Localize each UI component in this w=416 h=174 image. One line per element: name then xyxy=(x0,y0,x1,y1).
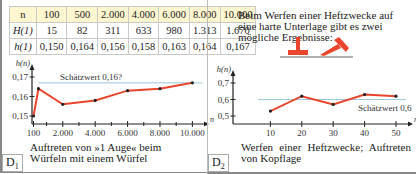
reference-line-label: Schätzwert 0,16? xyxy=(60,72,122,82)
x-tick-label: 2.000 xyxy=(53,128,74,138)
y-axis-label: h(n) xyxy=(16,58,30,68)
data-point xyxy=(32,114,35,117)
chart-caption: Werfen einer Heftzwecke; Auftreten von K… xyxy=(241,142,411,164)
data-point xyxy=(126,89,129,92)
panel-d1: n 100 500 2.000 4.000 6.000 8.000 10.000… xyxy=(0,0,207,173)
data-point xyxy=(94,99,97,102)
y-tick-label: 0,7 xyxy=(218,78,230,88)
tag-letter: D xyxy=(212,155,221,169)
y-axis-arrow-icon xyxy=(231,70,236,76)
data-point xyxy=(191,81,194,84)
series-line xyxy=(34,83,193,116)
data-point xyxy=(158,87,161,90)
panel-d2: Beim Werfen einer Heftzwecke auf eine ha… xyxy=(207,0,416,174)
x-tick-label: 30 xyxy=(329,128,339,138)
data-point xyxy=(37,87,40,90)
reference-line-label: Schätzwert 0,6 xyxy=(358,103,412,113)
x-tick-label: 20 xyxy=(297,128,307,138)
x-tick-label: 10 xyxy=(266,128,276,138)
figure-tag: D2 xyxy=(208,154,229,172)
y-tick-label: 0,5 xyxy=(218,111,230,121)
x-tick-label: 100 xyxy=(27,128,41,138)
data-point xyxy=(363,93,366,96)
x-tick-label: 6.000 xyxy=(117,128,138,138)
y-tick-label: 0,6 xyxy=(218,95,230,105)
x-tick-label: 8.000 xyxy=(150,128,171,138)
chart-caption: Auftreten von »1 Auge« beim Würfeln mit … xyxy=(30,142,200,164)
y-axis-arrow-icon xyxy=(30,64,35,70)
data-point xyxy=(269,109,272,112)
x-axis-arrow-icon xyxy=(408,122,413,127)
x-tick-label: 50 xyxy=(392,128,402,138)
tag-letter: D xyxy=(6,155,15,169)
x-tick-label: 40 xyxy=(360,128,370,138)
y-tick-label: 0,16 xyxy=(12,92,28,102)
x-tick-label: 10.000 xyxy=(180,128,205,138)
data-point xyxy=(332,103,335,106)
data-point xyxy=(300,95,303,98)
x-tick-label: 4.000 xyxy=(85,128,106,138)
y-tick-label: 0,17 xyxy=(12,72,28,82)
figure-tag: D1 xyxy=(2,154,23,172)
tag-sub: 2 xyxy=(221,162,225,171)
y-axis-label: h(n) xyxy=(217,64,231,74)
tag-sub: 1 xyxy=(15,162,19,171)
data-point xyxy=(394,95,397,98)
data-point xyxy=(61,103,64,106)
y-tick-label: 0,15 xyxy=(12,111,28,121)
